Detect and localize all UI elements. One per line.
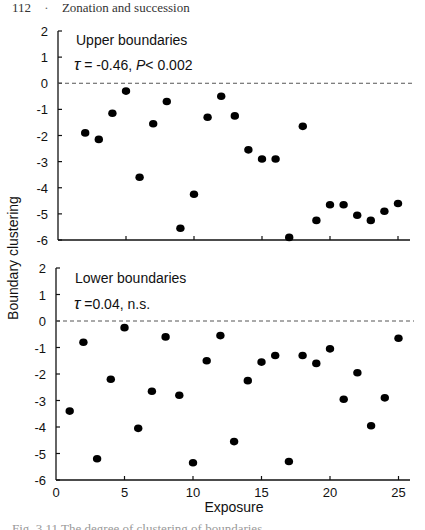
y-tick-label: -4 — [36, 181, 48, 196]
x-tick-label: 20 — [323, 485, 337, 500]
data-point — [312, 360, 320, 368]
data-point — [353, 211, 361, 219]
data-point — [353, 369, 361, 377]
data-point — [244, 377, 252, 385]
data-point — [271, 155, 279, 163]
data-point — [367, 422, 375, 430]
upper-panel-title: Upper boundaries — [76, 32, 187, 48]
data-point — [66, 407, 74, 415]
data-point — [79, 338, 87, 346]
data-point — [380, 207, 388, 215]
data-point — [108, 109, 116, 117]
data-point — [95, 136, 103, 144]
data-point — [367, 217, 375, 225]
data-point — [161, 333, 169, 341]
data-point — [394, 200, 402, 208]
lower-panel-statistic: τ =0.04, n.s. — [74, 294, 150, 313]
data-point — [285, 458, 293, 466]
data-point — [149, 120, 157, 128]
data-point — [285, 234, 293, 242]
data-point — [134, 425, 142, 433]
y-tick-label: 2 — [41, 24, 48, 39]
data-point — [93, 455, 101, 463]
data-point — [163, 98, 171, 106]
y-tick-label: 0 — [41, 76, 48, 91]
y-tick-label: -4 — [34, 420, 46, 435]
data-point — [244, 146, 252, 154]
y-tick-label: -1 — [34, 341, 46, 356]
upper-points — [81, 87, 402, 241]
y-tick-label: 1 — [39, 288, 46, 303]
upper-panel-statistic: τ = -0.46, P< 0.002 — [74, 55, 193, 74]
x-tick-label: 25 — [391, 485, 405, 500]
y-tick-label: -1 — [36, 102, 48, 117]
lower-points — [66, 324, 403, 467]
y-tick-label: -5 — [34, 447, 46, 462]
y-tick-label: -2 — [36, 129, 48, 144]
x-tick-label: 15 — [254, 485, 268, 500]
y-tick-label: -3 — [36, 155, 48, 170]
x-tick-label: 5 — [121, 485, 128, 500]
y-tick-label: -3 — [34, 394, 46, 409]
data-point — [299, 123, 307, 131]
data-point — [394, 334, 402, 342]
data-point — [231, 112, 239, 120]
data-point — [107, 376, 115, 384]
data-point — [230, 438, 238, 446]
figure: Boundary clustering Exposure 210-1-2-3-4… — [0, 0, 425, 530]
y-tick-label: -2 — [34, 367, 46, 382]
data-point — [135, 174, 143, 182]
data-point — [339, 201, 347, 209]
y-tick-label: -6 — [34, 473, 46, 488]
data-point — [271, 352, 279, 360]
data-point — [340, 395, 348, 403]
data-point — [312, 217, 320, 225]
x-axis-label: Exposure — [204, 499, 263, 515]
data-point — [258, 155, 266, 163]
data-point — [216, 332, 224, 340]
data-point — [190, 190, 198, 198]
data-point — [203, 357, 211, 365]
data-point — [326, 201, 334, 209]
data-point — [189, 459, 197, 467]
x-tick-label: 10 — [186, 485, 200, 500]
data-point — [381, 394, 389, 402]
y-tick-label: 0 — [39, 314, 46, 329]
lower-panel: 210-1-2-3-4-5-60510152025 Lower boundari… — [34, 261, 414, 500]
figure-caption: Fig. 3.11 The degree of clustering of bo… — [12, 521, 412, 530]
data-point — [298, 352, 306, 360]
data-point — [257, 358, 265, 366]
x-tick-label: 0 — [52, 485, 59, 500]
data-point — [217, 93, 225, 101]
data-point — [120, 324, 128, 332]
data-point — [326, 345, 334, 353]
upper-panel: 210-1-2-3-4-5-6 Upper boundaries τ = -0.… — [36, 24, 414, 248]
data-point — [203, 113, 211, 121]
data-point — [122, 87, 130, 95]
y-tick-label: -5 — [36, 207, 48, 222]
data-point — [176, 224, 184, 232]
y-tick-label: 2 — [39, 261, 46, 276]
y-tick-label: -6 — [36, 233, 48, 248]
data-point — [148, 387, 156, 395]
data-point — [81, 129, 89, 137]
y-axis-label: Boundary clustering — [5, 196, 21, 320]
data-point — [175, 391, 183, 399]
y-tick-label: 1 — [41, 50, 48, 65]
lower-panel-title: Lower boundaries — [75, 270, 186, 286]
